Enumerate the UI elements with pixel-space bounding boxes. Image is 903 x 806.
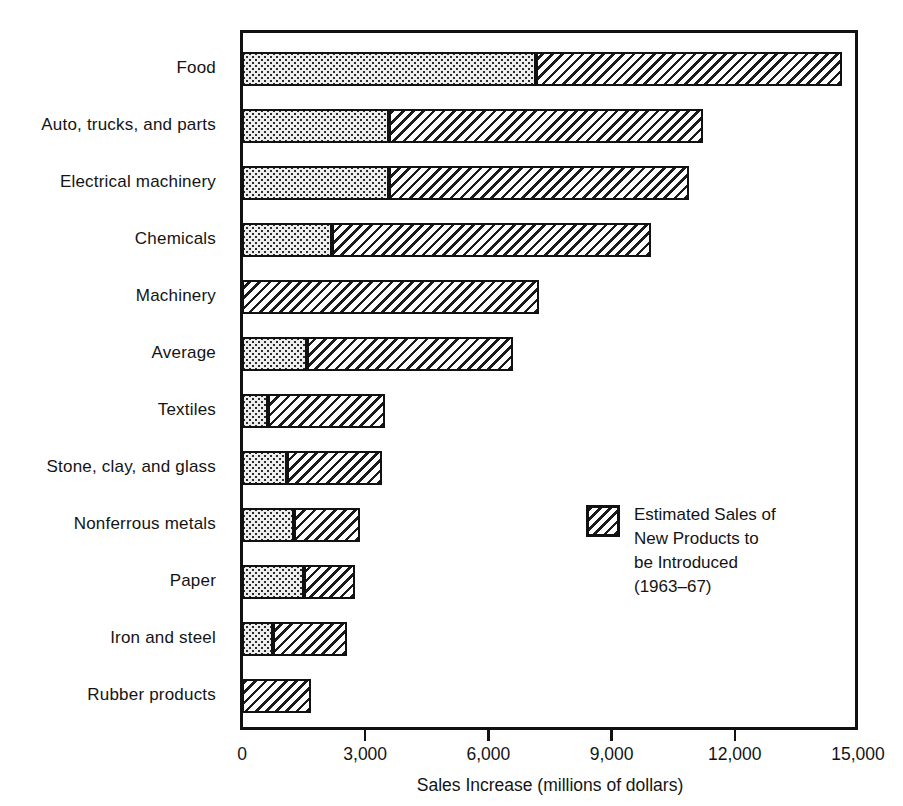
bar-segment-new-products [273,622,347,656]
x-tick-label: 9,000 [590,744,634,765]
x-tick-label: 6,000 [466,744,510,765]
bar-segment-new-products [332,223,651,257]
category-label: Electrical machinery [60,172,216,192]
legend-line-2: New Products to [634,527,776,551]
bar-segment-new-products [389,166,689,200]
x-tick-label: 0 [237,744,247,765]
x-tick-mark [487,730,490,741]
bar-segment-existing [242,52,536,86]
bar-segment-new-products [536,52,842,86]
bar-segment-existing [242,109,389,143]
x-axis-title: Sales Increase (millions of dollars) [242,775,858,796]
legend-label-new-products: Estimated Sales of New Products to be In… [634,503,776,599]
category-label: Average [152,343,216,363]
legend: Estimated Sales of New Products to be In… [586,503,776,599]
x-tick-label: 3,000 [343,744,387,765]
bar-segment-new-products [268,394,385,428]
category-label: Nonferrous metals [74,514,216,534]
x-tick-mark [610,730,613,741]
bar-segment-existing [242,451,287,485]
bar-segment-new-products [307,337,513,371]
x-tick-label: 15,000 [831,744,885,765]
category-label: Paper [170,571,216,591]
bar-segment-existing [242,166,389,200]
category-label: Rubber products [87,685,216,705]
bar-segment-existing [242,223,332,257]
category-label: Textiles [158,400,216,420]
legend-line-3: be Introduced [634,551,776,575]
bar-segment-existing [242,394,268,428]
category-label: Machinery [136,286,216,306]
bar-segment-new-products [242,280,539,314]
bar-segment-existing [242,337,307,371]
x-tick-label: 12,000 [708,744,762,765]
x-axis-tick-labels: 03,0006,0009,00012,00015,000 [0,744,903,770]
x-tick-mark [364,730,367,741]
category-label: Auto, trucks, and parts [41,115,216,135]
x-axis-ticks [242,730,858,742]
bar-segment-existing [242,565,304,599]
x-tick-mark [734,730,737,741]
bar-segment-new-products [242,679,311,713]
bar-segment-new-products [287,451,381,485]
category-label: Food [176,58,216,78]
bar-segment-new-products [294,508,360,542]
legend-line-4: (1963–67) [634,575,776,599]
legend-line-1: Estimated Sales of [634,503,776,527]
category-label: Stone, clay, and glass [47,457,216,477]
bar-segment-new-products [304,565,355,599]
legend-swatch-new-products-icon [586,505,620,537]
bar-segment-existing [242,622,273,656]
bars-layer [242,30,858,730]
bar-segment-new-products [389,109,703,143]
category-label: Chemicals [135,229,216,249]
bar-chart: FoodAuto, trucks, and partsElectrical ma… [0,0,903,806]
category-axis-labels: FoodAuto, trucks, and partsElectrical ma… [0,0,228,760]
category-label: Iron and steel [110,628,216,648]
bar-segment-existing [242,508,294,542]
